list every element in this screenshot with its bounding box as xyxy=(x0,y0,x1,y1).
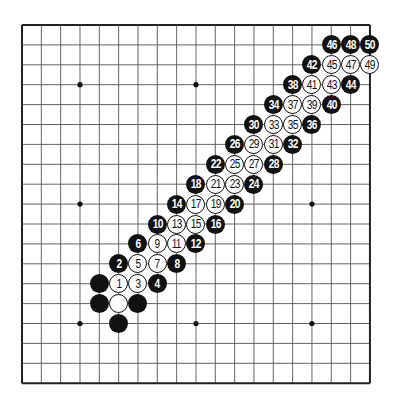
move-number: 34 xyxy=(268,99,278,111)
star-point xyxy=(309,321,314,326)
black-stone: 32 xyxy=(283,135,302,154)
move-number: 20 xyxy=(230,198,240,210)
white-stone: 23 xyxy=(225,175,244,194)
move-number: 48 xyxy=(346,39,356,51)
move-number: 21 xyxy=(210,178,220,190)
move-number: 31 xyxy=(268,138,278,150)
move-number: 2 xyxy=(116,258,121,270)
move-number: 17 xyxy=(191,198,201,210)
move-number: 45 xyxy=(326,59,336,71)
move-number: 37 xyxy=(288,99,298,111)
move-number: 42 xyxy=(307,59,317,71)
black-stone: 14 xyxy=(167,195,186,214)
move-number: 7 xyxy=(155,258,160,270)
star-point xyxy=(309,202,314,207)
move-number: 22 xyxy=(210,158,220,170)
move-number: 32 xyxy=(288,138,298,150)
white-stone: 19 xyxy=(206,195,225,214)
white-stone: 25 xyxy=(225,155,244,174)
white-stone: 45 xyxy=(322,55,341,74)
go-board[interactable]: 1234567891011121314151617181920212223242… xyxy=(0,0,399,404)
move-number: 14 xyxy=(172,198,182,210)
star-point xyxy=(77,321,82,326)
black-stone: 10 xyxy=(148,215,167,234)
move-number: 3 xyxy=(136,278,141,290)
star-point xyxy=(77,202,82,207)
move-number: 16 xyxy=(210,218,220,230)
star-point xyxy=(193,82,198,87)
white-stone: 21 xyxy=(206,175,225,194)
black-stone: 22 xyxy=(206,155,225,174)
move-number: 11 xyxy=(172,238,181,250)
move-number: 33 xyxy=(268,119,278,131)
move-number: 6 xyxy=(136,238,141,250)
move-number: 44 xyxy=(346,79,356,91)
move-number: 30 xyxy=(249,119,259,131)
black-stone xyxy=(90,274,109,293)
star-point xyxy=(193,321,198,326)
black-stone: 20 xyxy=(225,195,244,214)
move-number: 4 xyxy=(155,278,160,290)
move-number: 38 xyxy=(288,79,298,91)
move-number: 40 xyxy=(326,99,336,111)
move-number: 24 xyxy=(249,178,259,190)
white-stone: 13 xyxy=(167,215,186,234)
move-number: 36 xyxy=(307,119,317,131)
move-number: 8 xyxy=(174,258,179,270)
move-number: 35 xyxy=(288,119,298,131)
move-number: 39 xyxy=(307,99,317,111)
move-number: 46 xyxy=(326,39,336,51)
white-stone: 33 xyxy=(264,115,283,134)
move-number: 5 xyxy=(136,258,141,270)
white-stone: 17 xyxy=(186,195,205,214)
white-stone: 43 xyxy=(322,75,341,94)
move-number: 19 xyxy=(210,198,220,210)
black-stone: 26 xyxy=(225,135,244,154)
move-number: 50 xyxy=(365,39,375,51)
move-number: 43 xyxy=(326,79,336,91)
white-stone: 15 xyxy=(186,215,205,234)
black-stone: 28 xyxy=(264,155,283,174)
move-number: 27 xyxy=(249,158,259,170)
move-number: 23 xyxy=(230,178,240,190)
move-number: 25 xyxy=(230,158,240,170)
move-number: 13 xyxy=(172,218,182,230)
star-point xyxy=(77,82,82,87)
move-number: 26 xyxy=(230,138,240,150)
black-stone xyxy=(109,314,128,333)
move-number: 47 xyxy=(346,59,356,71)
move-number: 10 xyxy=(152,218,162,230)
move-number: 12 xyxy=(191,238,201,250)
black-stone: 4 xyxy=(148,274,167,293)
white-stone: 31 xyxy=(264,135,283,154)
black-stone: 40 xyxy=(322,95,341,114)
move-number: 28 xyxy=(268,158,278,170)
white-stone: 35 xyxy=(283,115,302,134)
move-number: 18 xyxy=(191,178,201,190)
move-number: 15 xyxy=(191,218,201,230)
black-stone xyxy=(90,294,109,313)
black-stone: 34 xyxy=(264,95,283,114)
move-number: 41 xyxy=(307,79,317,91)
move-number: 9 xyxy=(155,238,160,250)
move-number: 29 xyxy=(249,138,259,150)
black-stone: 16 xyxy=(206,215,225,234)
move-number: 49 xyxy=(365,59,375,71)
white-stone: 7 xyxy=(148,254,167,273)
move-number: 1 xyxy=(116,278,121,290)
